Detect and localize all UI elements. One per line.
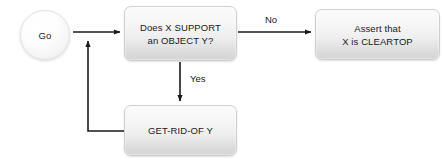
node-start-label: Go xyxy=(39,29,52,42)
node-get-rid-of[interactable]: GET-RID-OF Y xyxy=(124,105,237,156)
node-decision-label: Does X SUPPORT an OBJECT Y? xyxy=(140,21,221,47)
flowchart-canvas: Go Does X SUPPORT an OBJECT Y? Assert th… xyxy=(0,0,443,166)
node-assert-cleartop-label: Assert that X is CLEARTOP xyxy=(342,22,413,48)
node-assert-cleartop[interactable]: Assert that X is CLEARTOP xyxy=(315,9,440,60)
node-decision[interactable]: Does X SUPPORT an OBJECT Y? xyxy=(124,6,237,61)
node-start[interactable]: Go xyxy=(20,10,70,60)
edge-label-yes: Yes xyxy=(190,73,206,84)
edge-label-no: No xyxy=(265,14,277,25)
edge-getridof-loop-back xyxy=(88,41,124,131)
node-get-rid-of-label: GET-RID-OF Y xyxy=(148,124,213,137)
